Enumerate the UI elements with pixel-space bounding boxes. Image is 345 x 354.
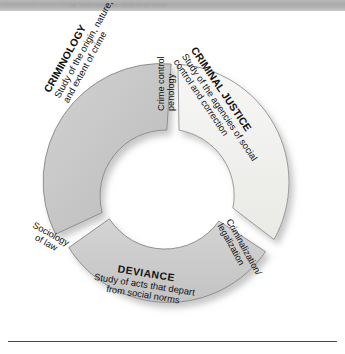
bottom-divider-rule <box>8 341 337 342</box>
header-blurred-text-left: ........ .... .... <box>6 0 77 7</box>
page-root: ........ .... .... ... ...... ...... ...… <box>0 0 345 354</box>
page-header-strip: ........ .... .... ... ...... ...... ...… <box>0 0 345 11</box>
gap-label-crime-control-line1: Crime control <box>156 56 166 111</box>
gap-label-crime-control-penology: Crime control penology <box>156 56 177 111</box>
gap-label-crime-control-line2: penology <box>166 56 176 111</box>
criminology-donut-diagram: CRIMINOLOGY Study of the origin, nature,… <box>0 11 345 342</box>
